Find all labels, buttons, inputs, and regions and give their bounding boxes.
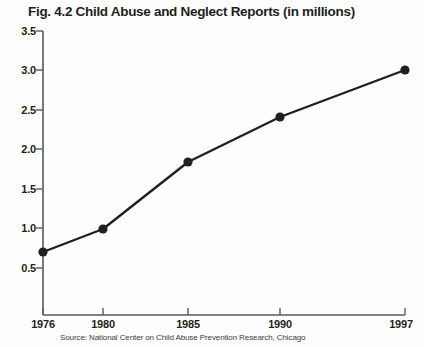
data-point (400, 65, 409, 74)
data-line (43, 70, 405, 252)
data-point (275, 112, 284, 121)
y-tick-marks (36, 31, 43, 268)
data-point (38, 247, 47, 256)
data-point (98, 224, 107, 233)
source-note: Source: National Center on Child Abuse P… (60, 333, 305, 342)
figure-container: Fig. 4.2 Child Abuse and Neglect Reports… (0, 0, 424, 347)
data-points (38, 65, 409, 256)
x-tick-marks (43, 308, 405, 315)
plot-area (0, 0, 424, 347)
data-point (183, 157, 192, 166)
